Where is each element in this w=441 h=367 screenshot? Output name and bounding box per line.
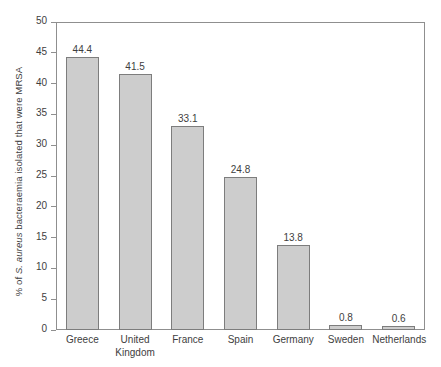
y-axis-title-species: S. aureus [13, 232, 24, 274]
bar-group: 13.8 [277, 22, 310, 330]
x-axis-label-line: United [109, 334, 162, 347]
x-axis-tick-label: UnitedKingdom [109, 334, 162, 359]
y-axis-tick-label: 5 [41, 292, 47, 303]
bar-value-label: 13.8 [283, 232, 302, 243]
x-axis-label-line: France [161, 334, 214, 347]
bar [171, 126, 204, 330]
bar-group: 0.8 [329, 22, 362, 330]
x-axis: GreeceUnitedKingdomFranceSpainGermanySwe… [56, 334, 425, 367]
bar [224, 177, 257, 330]
y-axis-tick-label: 10 [36, 261, 47, 272]
bar-value-label: 33.1 [178, 113, 197, 124]
bar-group: 24.8 [224, 22, 257, 330]
bar-value-label: 44.4 [73, 44, 92, 55]
x-axis-label-line: Netherlands [372, 334, 425, 347]
x-axis-tick-label: Spain [214, 334, 267, 347]
bar [277, 245, 310, 330]
bar [382, 326, 415, 330]
x-axis-label-line: Germany [267, 334, 320, 347]
bar-value-label: 24.8 [231, 164, 250, 175]
x-axis-label-line: Spain [214, 334, 267, 347]
y-axis-tick-label: 40 [36, 77, 47, 88]
x-axis-tick-label: Greece [56, 334, 109, 347]
bar-group: 44.4 [66, 22, 99, 330]
bar-group: 33.1 [171, 22, 204, 330]
y-axis-tick-label: 35 [36, 107, 47, 118]
bar-value-label: 41.5 [125, 61, 144, 72]
bar-group: 0.6 [382, 22, 415, 330]
bar [329, 325, 362, 330]
y-axis-tick-label: 30 [36, 138, 47, 149]
bar-group: 41.5 [119, 22, 152, 330]
y-axis-tick-label: 20 [36, 200, 47, 211]
y-axis-tick-label: 45 [36, 46, 47, 57]
bar-chart: % of S. aureus bacteraemia isolated that… [0, 0, 441, 367]
bar [119, 74, 152, 330]
bar-value-label: 0.6 [392, 313, 406, 324]
y-axis-tick-label: 50 [36, 15, 47, 26]
y-axis-title: % of S. aureus bacteraemia isolated that… [13, 27, 24, 337]
x-axis-label-line: Kingdom [109, 347, 162, 360]
x-axis-tick-label: Netherlands [372, 334, 425, 347]
y-axis-title-prefix: % of [13, 274, 24, 296]
bar [66, 57, 99, 331]
bars-layer: 44.441.533.124.813.80.80.6 [56, 22, 425, 330]
x-axis-tick-label: Germany [267, 334, 320, 347]
x-axis-tick-label: France [161, 334, 214, 347]
x-axis-label-line: Greece [56, 334, 109, 347]
x-axis-label-line: Sweden [320, 334, 373, 347]
x-axis-tick-label: Sweden [320, 334, 373, 347]
y-axis-tick-label: 15 [36, 231, 47, 242]
bar-value-label: 0.8 [339, 312, 353, 323]
y-axis-tick-label: 0 [41, 323, 47, 334]
y-axis-title-suffix: bacteraemia isolated that were MRSA [13, 67, 24, 233]
y-axis-tick-label: 25 [36, 169, 47, 180]
